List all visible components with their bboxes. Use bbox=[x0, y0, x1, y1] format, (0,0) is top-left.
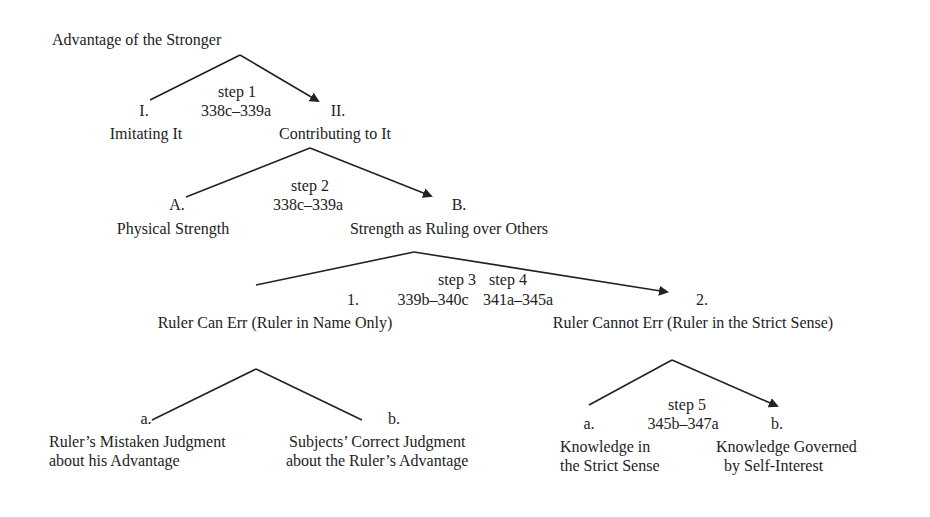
node-1b-marker: b. bbox=[388, 409, 400, 428]
node-2b-marker: b. bbox=[771, 414, 783, 433]
node-2-marker: 2. bbox=[696, 290, 708, 309]
step-3-reference: 339b–340c bbox=[397, 290, 468, 309]
node-2b-label-line2: by Self-Interest bbox=[724, 456, 823, 475]
branch-line-1 bbox=[256, 252, 414, 285]
step-3-label: step 3 bbox=[438, 270, 476, 289]
node-II-marker: II. bbox=[331, 101, 346, 120]
node-2a-label-line1: Knowledge in bbox=[560, 437, 650, 456]
step-2-label: step 2 bbox=[291, 176, 329, 195]
step-1-reference: 338c–339a bbox=[201, 101, 271, 120]
node-II-label: Contributing to It bbox=[279, 124, 391, 143]
branch-line-2a bbox=[589, 360, 672, 405]
step-4-label: step 4 bbox=[489, 270, 527, 289]
node-1-label: Ruler Can Err (Ruler in Name Only) bbox=[158, 313, 393, 332]
node-A-marker: A. bbox=[169, 195, 185, 214]
node-1b-label-line1: Subjects’ Correct Judgment bbox=[289, 432, 466, 451]
branch-line-1b bbox=[256, 369, 362, 420]
node-1a-label-line1: Ruler’s Mistaken Judgment bbox=[49, 432, 226, 451]
node-2a-label-line2: the Strict Sense bbox=[560, 456, 660, 475]
node-A-label: Physical Strength bbox=[117, 219, 229, 238]
branch-line-1a bbox=[152, 369, 256, 420]
node-B-marker: B. bbox=[452, 195, 467, 214]
step-5-reference: 345b–347a bbox=[647, 414, 718, 433]
node-2-label: Ruler Cannot Err (Ruler in the Strict Se… bbox=[553, 313, 833, 332]
node-B-label: Strength as Ruling over Others bbox=[350, 219, 548, 238]
node-1a-label-line2: about his Advantage bbox=[49, 451, 180, 470]
step-1-label: step 1 bbox=[218, 82, 256, 101]
node-1-marker: 1. bbox=[347, 290, 359, 309]
node-2b-label-line1: Knowledge Governed bbox=[716, 437, 857, 456]
node-2a-marker: a. bbox=[583, 414, 594, 433]
node-1a-marker: a. bbox=[140, 409, 151, 428]
node-1b-label-line2: about the Ruler’s Advantage bbox=[286, 451, 468, 470]
node-I-label: Imitating It bbox=[110, 124, 182, 143]
step-5-label: step 5 bbox=[668, 395, 706, 414]
node-I-marker: I. bbox=[139, 101, 148, 120]
step-4-reference: 341a–345a bbox=[483, 290, 553, 309]
root-node: Advantage of the Stronger bbox=[52, 30, 221, 49]
step-2-reference: 338c–339a bbox=[273, 195, 343, 214]
